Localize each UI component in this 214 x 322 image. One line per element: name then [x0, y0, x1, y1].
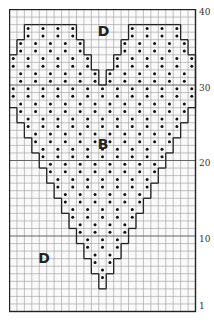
row-label-1: 1 — [199, 301, 205, 311]
row-label-40: 40 — [199, 7, 210, 17]
row-label-10: 10 — [199, 234, 210, 244]
color-key-b: B — [98, 136, 109, 152]
color-key-d: D — [38, 250, 50, 266]
row-label-20: 20 — [199, 158, 210, 168]
color-key-d: D — [98, 23, 110, 39]
row-label-30: 30 — [199, 83, 210, 93]
knitting-chart-grid — [9, 9, 199, 314]
